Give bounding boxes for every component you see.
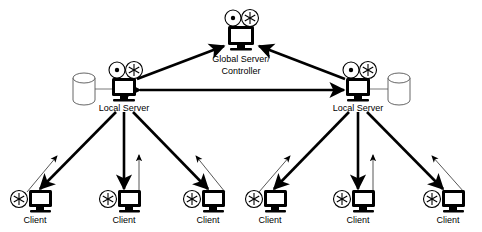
network-diagram: Global Server/ Controller [0,0,482,232]
client-6-label: Client [436,215,460,225]
global-server-label-line2: Controller [221,66,260,76]
asterisk-circle-icon [184,191,201,208]
storage-cylinder-left [73,73,95,105]
monitor-icon [228,26,254,51]
client-2-label: Client [112,215,136,225]
monitor-icon [29,190,52,213]
dot-circle-icon [225,10,241,26]
client-5-label: Client [346,215,370,225]
global-server-label-line1: Global Server/ [212,54,270,64]
monitor-icon [352,190,375,213]
edge-left-server-to-client-3 [133,112,208,189]
local-server-left-label: Local Server [99,103,150,113]
edge-left-server-to-client-1 [40,112,116,189]
edge-local-right-to-global [259,46,345,79]
node-client-2[interactable]: Client [100,190,142,225]
node-client-6[interactable]: Client [424,190,466,225]
edge-client-4-to-right-server [259,156,290,192]
node-client-3[interactable]: Client [184,190,226,225]
node-local-server-right[interactable]: Local Server [333,62,384,114]
node-global-server[interactable]: Global Server/ Controller [212,10,270,77]
asterisk-circle-icon [242,10,259,27]
monitor-icon [118,190,141,213]
edge-local-left-to-global [137,46,224,79]
client-4-label: Client [258,215,282,225]
asterisk-circle-icon [360,62,377,79]
asterisk-circle-icon [11,191,28,208]
client-1-label: Client [23,215,47,225]
node-client-5[interactable]: Client [334,190,376,225]
dot-circle-icon [109,62,125,78]
asterisk-circle-icon [126,62,143,79]
dot-circle-icon [343,62,359,78]
node-client-1[interactable]: Client [11,190,53,225]
node-client-4[interactable]: Client [246,190,288,225]
edge-right-server-to-client-4 [274,112,349,189]
edge-client-6-to-right-server [432,156,464,192]
edge-right-server-to-client-6 [367,112,443,189]
asterisk-circle-icon [246,191,263,208]
asterisk-circle-icon [334,191,351,208]
local-server-right-label: Local Server [333,103,384,113]
edge-client-3-to-left-server [196,156,225,192]
monitor-icon [264,190,287,213]
storage-cylinder-right [388,73,410,105]
asterisk-circle-icon [100,191,117,208]
monitor-icon [202,190,225,213]
asterisk-circle-icon [424,191,441,208]
monitor-icon [112,78,136,102]
node-local-server-left[interactable]: Local Server [99,62,150,114]
monitor-icon [346,78,370,102]
monitor-icon [442,190,465,213]
client-3-label: Client [196,215,220,225]
